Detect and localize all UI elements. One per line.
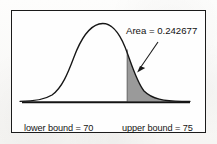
calculator-screen-frame: Area = 0.242677 lower bound = 70 upper b… bbox=[11, 10, 206, 133]
lower-bound-label: lower bound = 70 bbox=[24, 123, 93, 133]
distribution-plot-area: Area = 0.242677 bbox=[12, 11, 205, 132]
area-annotation-label: Area = 0.242677 bbox=[126, 25, 197, 36]
area-callout-arrow-line bbox=[141, 42, 159, 68]
upper-bound-label: upper bound = 75 bbox=[122, 123, 193, 133]
normal-curve-graphic: Area = 0.242677 bbox=[12, 11, 205, 132]
figure-root: Area = 0.242677 lower bound = 70 upper b… bbox=[0, 0, 217, 144]
area-callout-arrowhead bbox=[137, 66, 145, 72]
